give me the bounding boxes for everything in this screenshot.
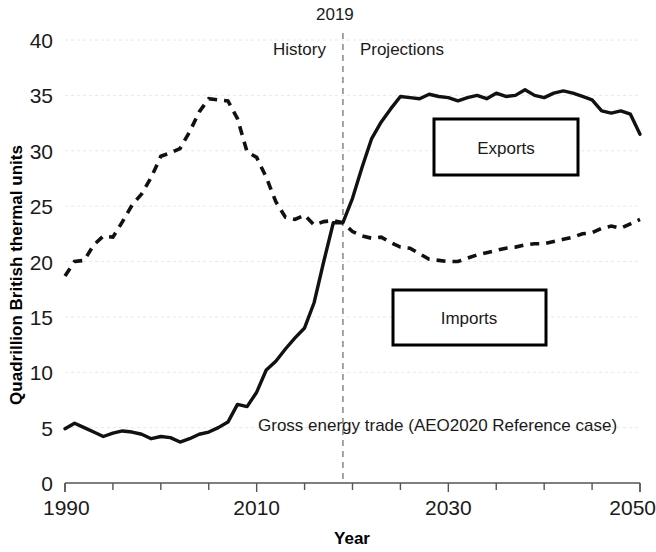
x-axis: 1990201020302050 (43, 483, 656, 519)
x-tick-label: 2030 (425, 496, 472, 519)
y-tick-label: 35 (30, 84, 53, 107)
y-tick-label: 0 (41, 472, 53, 495)
divider-year-label: 2019 (316, 5, 354, 24)
x-axis-title: Year (334, 529, 370, 548)
y-tick-label: 10 (30, 361, 53, 384)
legend-imports[interactable]: Imports (393, 290, 546, 345)
x-tick-label: 1990 (43, 496, 90, 519)
y-tick-label: 40 (30, 29, 53, 52)
x-tick-label: 2010 (233, 496, 280, 519)
legend-imports-label: Imports (441, 309, 498, 328)
y-axis-title: Quadrillion British thermal units (7, 145, 26, 405)
y-tick-label: 5 (41, 417, 53, 440)
x-tick-label: 2050 (609, 496, 656, 519)
chart-annotation: Gross energy trade (AEO2020 Reference ca… (258, 416, 617, 435)
legend-exports-label: Exports (477, 139, 535, 158)
projection-divider: 2019 History Projections (273, 5, 444, 483)
legend-exports[interactable]: Exports (434, 119, 578, 175)
x-axis-tick-labels: 1990201020302050 (43, 496, 656, 519)
x-axis-tick-marks (65, 483, 640, 492)
projections-label: Projections (360, 40, 444, 59)
y-axis-tick-labels: 0510152025303540 (30, 29, 53, 495)
chart-figure: 0510152025303540 1990201020302050 2019 H… (0, 0, 656, 552)
y-tick-label: 20 (30, 251, 53, 274)
y-tick-label: 30 (30, 140, 53, 163)
history-label: History (273, 40, 326, 59)
y-tick-label: 15 (30, 306, 53, 329)
y-tick-label: 25 (30, 195, 53, 218)
gridlines (65, 40, 640, 428)
chart-canvas: 0510152025303540 1990201020302050 2019 H… (0, 0, 656, 552)
